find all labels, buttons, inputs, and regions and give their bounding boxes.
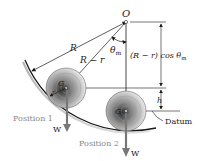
weight-label-2: W (131, 149, 140, 158)
height-label: h (157, 96, 162, 105)
datum-label: Datum (165, 117, 193, 126)
energy-diagram: O R R − r θm (R − r) cos θm h G r G W W … (0, 0, 207, 161)
cos-dimension-label: (R − r) cos θm (130, 51, 187, 61)
weight-label-1: W (53, 125, 62, 134)
angle-label: θm (110, 45, 121, 56)
radius-R-label: R (69, 43, 77, 53)
pivot-point (124, 20, 127, 23)
center-label-2: G (115, 107, 122, 116)
position-1-label: Position 1 (13, 114, 53, 123)
angle-arc (112, 37, 126, 42)
center-label-1: G (58, 79, 65, 88)
datum-leader (152, 111, 163, 121)
radius-R-minus-r-label: R − r (79, 55, 105, 65)
position-2-label: Position 2 (79, 139, 119, 148)
pivot-label: O (122, 8, 130, 19)
